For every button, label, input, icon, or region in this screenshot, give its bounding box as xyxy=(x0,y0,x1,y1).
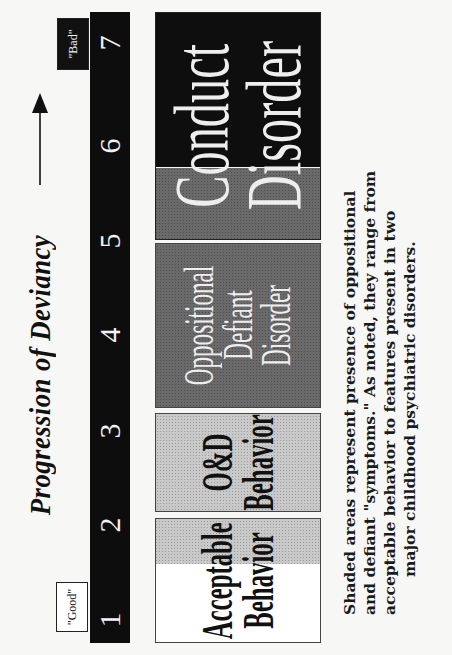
scale-number: 6 xyxy=(90,131,130,161)
diagram-title: Progression of Deviancy xyxy=(18,209,62,540)
category-label: Acceptable xyxy=(197,522,238,639)
caption: Shaded areas represent presence of oppos… xyxy=(340,95,424,615)
category-od-behavior: O&D Behavior xyxy=(155,413,321,512)
caption-line: and defiant "symptoms." As noted, they r… xyxy=(360,95,380,615)
scale-number: 4 xyxy=(90,320,130,350)
caption-line: major childhood psychiatric disorders. xyxy=(400,95,420,615)
category-oppositional-defiant-disorder: Oppositional Defiant Disorder xyxy=(155,243,321,408)
category-label: Behavior xyxy=(238,414,279,510)
scale-number: 7 xyxy=(90,28,130,58)
category-label: Oppositional xyxy=(180,266,219,385)
scale-number: 3 xyxy=(90,416,130,446)
caption-line: acceptable behavior to features present … xyxy=(380,95,400,615)
category-label: Disorder xyxy=(238,41,310,210)
bad-label: "Bad" xyxy=(57,18,89,70)
category-label: Conduct xyxy=(166,44,238,208)
category-label: Defiant xyxy=(219,291,258,360)
category-conduct-disorder: Conduct Disorder xyxy=(155,12,321,240)
scale-number: 5 xyxy=(90,226,130,256)
scale-number: 1 xyxy=(90,605,130,635)
arrow-right-icon xyxy=(30,93,50,185)
caption-line: Shaded areas represent presence of oppos… xyxy=(340,95,360,615)
scale-number: 2 xyxy=(90,510,130,540)
good-label: "Good" xyxy=(56,582,88,632)
category-acceptable-behavior: Acceptable Behavior xyxy=(155,518,321,643)
category-label: Behavior xyxy=(238,532,279,628)
diagram-canvas: Progression of Deviancy "Good" "Bad" 1 2… xyxy=(0,0,452,655)
category-label: Disorder xyxy=(257,285,296,366)
category-label: O&D xyxy=(197,434,238,492)
scale-bar: 1 2 3 4 5 6 7 xyxy=(90,12,130,643)
